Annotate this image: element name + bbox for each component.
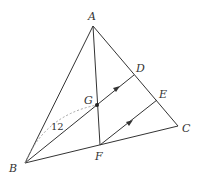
label-e: E bbox=[158, 88, 167, 101]
label-g: G bbox=[84, 94, 93, 107]
segment-ab bbox=[25, 26, 93, 163]
label-a: A bbox=[87, 10, 96, 23]
label-d: D bbox=[135, 62, 145, 75]
label-length-12: 12 bbox=[51, 121, 64, 132]
point-g-dot bbox=[95, 103, 99, 107]
geometry-diagram: A B C D E F G 12 bbox=[0, 0, 199, 184]
label-c: C bbox=[182, 122, 191, 135]
label-b: B bbox=[8, 162, 17, 175]
segment-ac bbox=[93, 26, 178, 126]
label-f: F bbox=[94, 150, 103, 163]
parallel-arrow-icon bbox=[126, 120, 133, 126]
segment-af bbox=[93, 26, 100, 145]
